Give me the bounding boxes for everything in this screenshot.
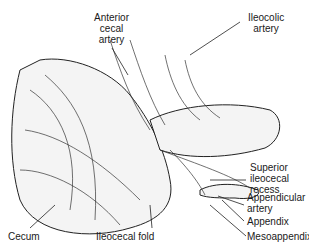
label-appendicular-artery: Appendicular artery bbox=[247, 192, 305, 214]
label-anterior-cecal-artery: Anterior cecal artery bbox=[94, 12, 129, 45]
label-appendix: Appendix bbox=[247, 216, 289, 227]
label-mesoappendix: Mesoappendix bbox=[247, 231, 309, 242]
label-ileocolic-artery: Ileocolic artery bbox=[248, 12, 284, 34]
label-ileocecal-fold: Ileocecal fold bbox=[96, 231, 154, 242]
label-cecum: Cecum bbox=[8, 231, 40, 242]
label-superior-ileocecal-recess: Superior ileocecal recess bbox=[250, 162, 289, 195]
